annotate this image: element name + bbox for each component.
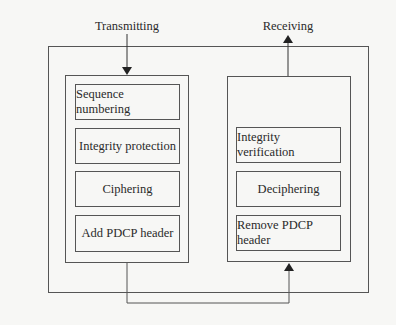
- integrity-verification-block: Integrity verification: [236, 127, 341, 163]
- sequence-numbering-block: Sequence numbering: [75, 84, 180, 120]
- transmitting-label: Transmitting: [80, 19, 174, 34]
- integrity-protection-block: Integrity protection: [75, 128, 180, 164]
- deciphering-block: Deciphering: [236, 171, 341, 207]
- receiving-label: Receiving: [250, 19, 326, 34]
- ciphering-block: Ciphering: [75, 171, 180, 207]
- add-pdcp-header-block: Add PDCP header: [75, 215, 180, 252]
- remove-pdcp-header-block: Remove PDCP header: [236, 215, 341, 251]
